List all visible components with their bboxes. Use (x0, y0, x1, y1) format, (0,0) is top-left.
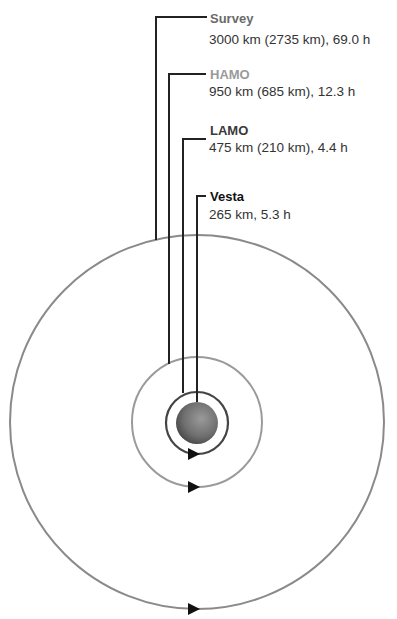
vesta-body (176, 402, 218, 444)
vesta-leader-line (197, 196, 206, 402)
hamo-leader-line (169, 74, 206, 364)
vesta-detail: 265 km, 5.3 h (209, 207, 291, 223)
vesta-label: Vesta (210, 189, 244, 204)
hamo-label: HAMO (210, 67, 250, 82)
survey-direction-arrow-icon (188, 603, 200, 615)
survey-leader-line (156, 17, 207, 240)
survey-label: Survey (210, 11, 253, 26)
lamo-label: LAMO (210, 123, 248, 138)
survey-detail: 3000 km (2735 km), 69.0 h (209, 32, 370, 48)
hamo-direction-arrow-icon (188, 481, 200, 493)
hamo-detail: 950 km (685 km), 12.3 h (209, 84, 355, 100)
lamo-leader-line (183, 139, 206, 393)
lamo-direction-arrow-icon (188, 448, 200, 460)
lamo-detail: 475 km (210 km), 4.4 h (209, 140, 348, 156)
